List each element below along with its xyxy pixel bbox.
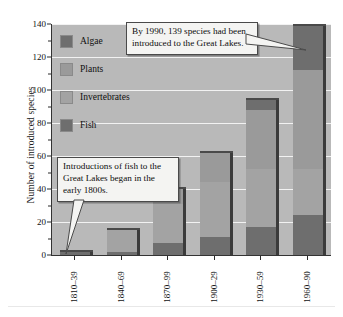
y-tick-label: 20 — [20, 217, 46, 227]
y-tick-label: 140 — [20, 19, 46, 29]
bar-segment-invertebrates — [153, 204, 183, 244]
bar-shadow — [230, 153, 233, 255]
y-tick-mark — [47, 189, 51, 190]
annotation-total-1990-leader — [244, 28, 324, 58]
legend-item-algae: Algae — [60, 34, 103, 48]
bar — [200, 153, 230, 255]
legend-label: Plants — [80, 64, 103, 74]
y-tick-label: 60 — [20, 151, 46, 161]
legend-swatch-icon — [60, 63, 73, 76]
bar-top-edge — [246, 98, 279, 100]
legend-swatch-icon — [60, 119, 73, 132]
bar-segment-invertebrates — [293, 169, 323, 215]
y-tick-mark — [47, 123, 51, 124]
bar-segment-fish — [246, 227, 276, 255]
legend-item-invertebrates: Invertebrates — [60, 90, 130, 104]
bar — [107, 230, 137, 255]
y-tick-mark — [47, 90, 51, 91]
y-tick-label: 80 — [20, 118, 46, 128]
y-tick-mark-minor — [48, 40, 51, 41]
x-tick-mark — [307, 256, 308, 260]
bar-segment-invertebrates — [107, 230, 137, 251]
x-tick-mark — [74, 256, 75, 260]
bar-top-edge — [107, 228, 140, 230]
legend-swatch-icon — [60, 91, 73, 104]
y-tick-label: 0 — [20, 250, 46, 260]
y-tick-mark-minor — [48, 139, 51, 140]
bar — [293, 26, 323, 255]
y-tick-mark-minor — [48, 106, 51, 107]
y-tick-mark-minor — [48, 205, 51, 206]
y-tick-mark — [47, 255, 51, 256]
legend-label: Algae — [80, 36, 103, 46]
bar-segment-algae — [246, 100, 276, 110]
y-tick-mark-minor — [48, 238, 51, 239]
bar-segment-fish — [200, 237, 230, 255]
y-tick-mark — [47, 222, 51, 223]
bar-shadow — [183, 189, 186, 255]
legend-label: Invertebrates — [80, 92, 130, 102]
y-tick-label: 40 — [20, 184, 46, 194]
bar-segment-fish — [293, 215, 323, 255]
bar-shadow — [137, 230, 140, 255]
y-tick-label: 120 — [20, 52, 46, 62]
bar-shadow — [276, 100, 279, 255]
bar-segment-fish — [153, 243, 183, 255]
legend-swatch-icon — [60, 35, 73, 48]
x-tick-mark — [167, 256, 168, 260]
chart-figure: Number of introduced species 02040608010… — [0, 0, 343, 317]
bar-segment-invertebrates — [200, 182, 230, 236]
bar-top-edge — [200, 151, 233, 153]
bar-segment-plants — [200, 153, 230, 183]
annotation-total-1990: By 1990, 139 species had been introduced… — [126, 22, 258, 55]
figure-bottom-rule — [8, 306, 335, 307]
x-tick-mark — [260, 256, 261, 260]
bar-segment-fish — [107, 252, 137, 255]
y-tick-mark — [47, 57, 51, 58]
legend-item-fish: Fish — [60, 118, 96, 132]
y-tick-label: 100 — [20, 85, 46, 95]
bar-segment-invertebrates — [246, 169, 276, 227]
legend-item-plants: Plants — [60, 62, 103, 76]
bar-segment-plants — [293, 70, 323, 169]
y-tick-mark — [47, 24, 51, 25]
y-tick-mark-minor — [48, 172, 51, 173]
bar-segment-plants — [246, 110, 276, 169]
bar — [246, 100, 276, 255]
y-axis-ticks: 020406080100120140 — [16, 0, 46, 317]
annotation-fish-start: Introductions of fish to the Great Lakes… — [57, 157, 179, 202]
x-tick-mark — [214, 256, 215, 260]
y-tick-mark-minor — [48, 73, 51, 74]
legend-label: Fish — [80, 120, 96, 130]
annotation-fish-start-leader — [60, 200, 100, 258]
bar-shadow — [323, 26, 326, 255]
x-tick-mark — [121, 256, 122, 260]
bar-top-edge — [293, 24, 326, 26]
y-tick-mark — [47, 156, 51, 157]
